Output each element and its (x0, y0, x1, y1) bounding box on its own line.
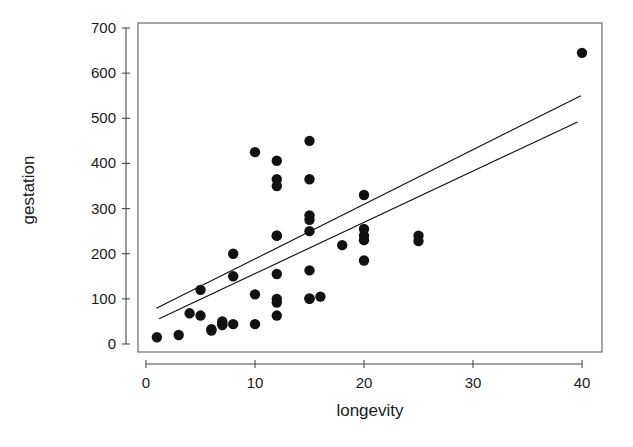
data-point (206, 324, 216, 334)
data-point (272, 181, 282, 191)
data-point (304, 265, 314, 275)
data-point (195, 285, 205, 295)
data-point (413, 236, 423, 246)
y-tick-label-100: 100 (91, 290, 116, 307)
x-tick-label-30: 30 (465, 374, 482, 391)
data-point (577, 48, 587, 58)
data-point (174, 330, 184, 340)
plot-canvas: 010203040 0100200300400500600700 longevi… (0, 0, 633, 447)
data-point (250, 147, 260, 157)
data-point (250, 289, 260, 299)
data-point (359, 235, 369, 245)
data-point (359, 190, 369, 200)
data-point (272, 297, 282, 307)
y-tick-label-200: 200 (91, 245, 116, 262)
data-point (337, 240, 347, 250)
data-point (217, 320, 227, 330)
data-point (272, 230, 282, 240)
data-point (304, 136, 314, 146)
data-point (228, 271, 238, 281)
data-point (304, 215, 314, 225)
x-axis-title: longevity (336, 401, 404, 420)
y-tick-label-0: 0 (108, 335, 116, 352)
x-tick-label-0: 0 (142, 374, 150, 391)
data-point (228, 319, 238, 329)
data-point (250, 319, 260, 329)
x-tick-label-40: 40 (574, 374, 591, 391)
data-point (304, 174, 314, 184)
scatter-plot-figure: 010203040 0100200300400500600700 longevi… (0, 0, 633, 447)
x-tick-label-20: 20 (356, 374, 373, 391)
x-tick-label-10: 10 (247, 374, 264, 391)
data-point (152, 332, 162, 342)
data-point (304, 293, 314, 303)
data-point (272, 310, 282, 320)
data-point (228, 249, 238, 259)
y-axis-title: gestation (19, 156, 38, 225)
data-point (359, 255, 369, 265)
y-tick-label-600: 600 (91, 64, 116, 81)
data-point (304, 226, 314, 236)
y-tick-label-400: 400 (91, 154, 116, 171)
y-tick-label-700: 700 (91, 19, 116, 36)
y-tick-label-500: 500 (91, 109, 116, 126)
data-point (184, 308, 194, 318)
data-point (195, 310, 205, 320)
data-point (272, 269, 282, 279)
data-point (272, 156, 282, 166)
y-tick-label-300: 300 (91, 200, 116, 217)
data-point (315, 291, 325, 301)
